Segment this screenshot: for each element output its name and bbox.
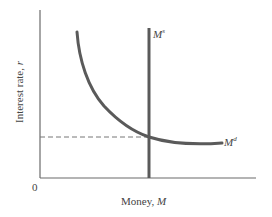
- chart-canvas: [0, 0, 272, 217]
- md-label-main: M: [224, 136, 233, 148]
- ms-label-sup: s: [162, 27, 165, 35]
- x-axis-label-text: Money,: [121, 195, 157, 207]
- y-axis-label-text: Interest rate,: [13, 65, 25, 123]
- x-axis-label-var: M: [157, 195, 166, 207]
- money-supply-label: Ms: [153, 27, 165, 40]
- money-demand-label: Md: [224, 135, 237, 148]
- ms-label-main: M: [153, 28, 162, 40]
- md-label-sup: d: [233, 135, 237, 143]
- x-axis-label: Money, M: [121, 195, 166, 207]
- y-axis-label: Interest rate, r: [13, 61, 25, 123]
- origin-label: 0: [32, 181, 38, 193]
- y-axis-label-var: r: [13, 61, 25, 65]
